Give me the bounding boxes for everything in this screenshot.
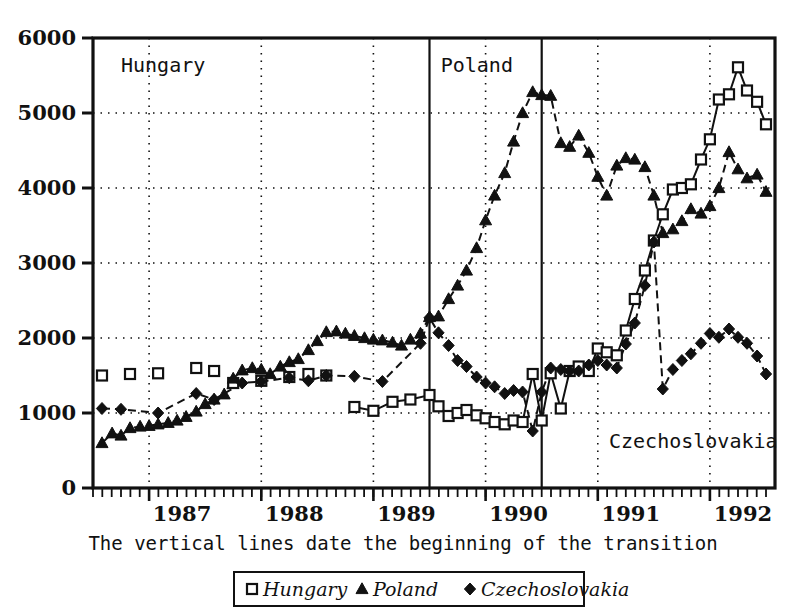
marker-poland <box>583 147 595 158</box>
annotation-hungary: Hungary <box>121 53 205 77</box>
marker-poland <box>471 242 483 253</box>
marker-czechoslovakia <box>115 403 126 415</box>
marker-poland <box>527 86 539 97</box>
x-tick-label: 1989 <box>377 501 435 526</box>
x-tick-label: 1990 <box>489 501 547 526</box>
marker-poland <box>404 333 416 344</box>
marker-hungary <box>191 363 201 373</box>
marker-hungary <box>696 155 706 165</box>
marker-czechoslovakia <box>695 337 706 349</box>
marker-hungary <box>125 369 135 379</box>
x-tick-label: 1992 <box>714 501 772 526</box>
marker-hungary <box>752 97 762 107</box>
y-tick-label: 2000 <box>18 325 76 350</box>
marker-hungary <box>761 119 771 129</box>
marker-poland <box>461 264 473 275</box>
y-tick-label: 1000 <box>18 400 76 425</box>
x-tick-label: 1987 <box>153 501 211 526</box>
marker-czechoslovakia <box>527 425 538 437</box>
marker-hungary <box>705 134 715 144</box>
marker-poland <box>685 203 697 214</box>
marker-hungary <box>153 368 163 378</box>
marker-poland <box>592 171 604 182</box>
marker-czechoslovakia <box>760 368 771 380</box>
marker-hungary <box>537 416 547 426</box>
marker-poland <box>704 200 716 211</box>
marker-poland <box>629 153 641 164</box>
marker-czechoslovakia <box>349 370 360 382</box>
chart-figure: 0100020003000400050006000 19871988198919… <box>0 0 807 614</box>
marker-poland <box>723 146 735 157</box>
marker-poland <box>555 137 567 148</box>
legend-marker-hungary <box>247 584 257 594</box>
marker-poland <box>648 189 660 200</box>
marker-poland <box>376 334 388 345</box>
figure-caption: The vertical lines date the beginning of… <box>88 532 717 554</box>
marker-poland <box>330 325 342 336</box>
marker-hungary <box>742 86 752 96</box>
y-tick-label: 5000 <box>18 100 76 125</box>
marker-hungary <box>621 326 631 336</box>
gridlines <box>93 38 775 488</box>
marker-hungary <box>349 402 359 412</box>
marker-hungary <box>97 371 107 381</box>
chart-svg: 0100020003000400050006000 19871988198919… <box>0 0 807 614</box>
plot-frame <box>93 38 775 488</box>
marker-poland <box>480 214 492 225</box>
marker-hungary <box>209 366 219 376</box>
marker-hungary <box>490 417 500 427</box>
marker-hungary <box>686 179 696 189</box>
plot-axes-frame <box>93 38 775 488</box>
marker-hungary <box>462 405 472 415</box>
annotation-czechoslovakia: Czechoslovakia <box>609 429 778 453</box>
marker-czechoslovakia <box>657 383 668 395</box>
y-axis-tick-labels: 0100020003000400050006000 <box>18 25 76 500</box>
y-tick-label: 6000 <box>18 25 76 50</box>
marker-czechoslovakia <box>377 376 388 388</box>
legend-label-czechoslovakia: Czechoslovakia <box>481 578 629 600</box>
marker-czechoslovakia <box>667 364 678 376</box>
marker-hungary <box>612 350 622 360</box>
marker-czechoslovakia <box>611 362 622 374</box>
marker-czechoslovakia <box>153 407 164 419</box>
marker-hungary <box>733 62 743 72</box>
marker-poland <box>517 107 529 118</box>
marker-hungary <box>388 397 398 407</box>
marker-hungary <box>425 390 435 400</box>
marker-poland <box>489 189 501 200</box>
marker-hungary <box>724 89 734 99</box>
marker-poland <box>751 168 763 179</box>
marker-czechoslovakia <box>96 403 107 415</box>
marker-czechoslovakia <box>191 388 202 400</box>
marker-poland <box>452 279 464 290</box>
marker-czechoslovakia <box>443 340 454 352</box>
marker-poland <box>499 167 511 178</box>
marker-poland <box>508 135 520 146</box>
marker-czechoslovakia <box>452 355 463 367</box>
marker-hungary <box>714 95 724 105</box>
marker-hungary <box>658 209 668 219</box>
marker-poland <box>573 129 585 140</box>
y-tick-label: 3000 <box>18 250 76 275</box>
marker-hungary <box>630 294 640 304</box>
y-tick-label: 0 <box>61 475 76 500</box>
y-tick-label: 4000 <box>18 175 76 200</box>
marker-hungary <box>528 369 538 379</box>
marker-hungary <box>640 266 650 276</box>
x-tick-label: 1991 <box>602 501 660 526</box>
legend: HungaryPolandCzechoslovakia <box>234 572 629 606</box>
marker-hungary <box>368 406 378 416</box>
marker-hungary <box>556 404 566 414</box>
marker-poland <box>106 427 118 438</box>
marker-poland <box>339 327 351 338</box>
marker-czechoslovakia <box>517 386 528 398</box>
marker-hungary <box>602 347 612 357</box>
marker-poland <box>676 215 688 226</box>
legend-label-poland: Poland <box>372 578 438 600</box>
annotation-poland: Poland <box>441 53 513 77</box>
x-axis-tick-labels: 198719881989199019911992 <box>153 501 772 526</box>
marker-poland <box>218 388 230 399</box>
legend-label-hungary: Hungary <box>262 578 348 600</box>
marker-czechoslovakia <box>461 361 472 373</box>
marker-poland <box>601 189 613 200</box>
